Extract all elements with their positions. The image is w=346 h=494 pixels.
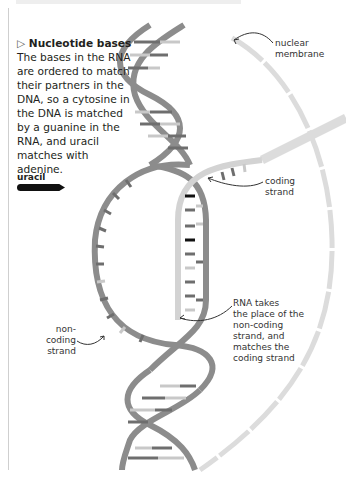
uracil-key-label: uracil bbox=[17, 172, 65, 182]
label-line: matches the bbox=[233, 342, 304, 353]
rna-note-label: RNA takes the place of the non-coding st… bbox=[233, 298, 304, 364]
uracil-key: uracil bbox=[17, 172, 65, 191]
triangle-marker-icon: ▷ bbox=[17, 37, 25, 49]
label-line: the place of the bbox=[233, 309, 304, 320]
intro-caption: ▷ Nucleotide bases The bases in the RNA … bbox=[17, 36, 135, 176]
label-line: nuclear bbox=[275, 38, 324, 49]
caption-heading-text: Nucleotide bases bbox=[29, 37, 131, 49]
label-line: strand, and bbox=[233, 331, 304, 342]
caption-body: The bases in the RNA are ordered to matc… bbox=[17, 51, 131, 175]
label-line: non-coding bbox=[30, 324, 76, 346]
coding-strand-label: coding strand bbox=[265, 176, 295, 198]
label-line: strand bbox=[265, 187, 295, 198]
nuclear-membrane-label: nuclear membrane bbox=[275, 38, 324, 60]
label-line: membrane bbox=[275, 49, 324, 60]
non-coding-strand-label: non-coding strand bbox=[30, 324, 76, 357]
uracil-swatch bbox=[17, 184, 65, 191]
label-line: coding strand bbox=[233, 353, 304, 364]
coding-strand-pointer-arrow bbox=[208, 178, 263, 186]
label-line: coding bbox=[265, 176, 295, 187]
non-coding-pointer-arrow bbox=[77, 336, 104, 344]
label-line: non-coding bbox=[233, 320, 304, 331]
lower-dna-helix bbox=[122, 370, 200, 470]
label-line: strand bbox=[30, 346, 76, 357]
nuclear-membrane bbox=[200, 38, 332, 470]
caption-heading: ▷ Nucleotide bases bbox=[17, 36, 135, 50]
label-line: RNA takes bbox=[233, 298, 304, 309]
non-coding-strand bbox=[95, 164, 213, 390]
